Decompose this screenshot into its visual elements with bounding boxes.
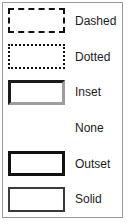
border-sample-cell [8, 151, 71, 176]
border-sample-cell [8, 80, 71, 105]
border-style-label: Inset [75, 85, 101, 99]
border-style-label: Solid [75, 192, 102, 206]
border-sample-dotted [8, 44, 65, 69]
border-sample-cell [8, 115, 71, 140]
table-row: None [3, 110, 122, 146]
border-style-label-cell: Dotted [71, 50, 122, 64]
border-sample-outset [8, 151, 65, 176]
table-row: Solid [3, 181, 122, 217]
table-row: Inset [3, 74, 122, 110]
border-style-label: Outset [75, 157, 110, 171]
border-style-label-cell: None [71, 121, 122, 135]
border-sample-cell [8, 44, 71, 69]
border-sample-inset [8, 80, 65, 105]
border-sample-cell [8, 8, 71, 33]
table-row: Outset [3, 146, 122, 182]
border-style-label-cell: Inset [71, 85, 122, 99]
border-style-label: None [75, 121, 104, 135]
border-style-label-cell: Outset [71, 157, 122, 171]
border-style-table: Dashed Dotted Inset None Outset [2, 2, 123, 218]
border-style-label-cell: Dashed [71, 14, 122, 28]
border-sample-dashed [8, 8, 65, 33]
border-style-label: Dashed [75, 14, 116, 28]
border-style-label-cell: Solid [71, 192, 122, 206]
border-style-label: Dotted [75, 50, 110, 64]
table-row: Dotted [3, 39, 122, 75]
border-sample-cell [8, 187, 71, 212]
border-sample-solid [8, 187, 65, 212]
border-sample-none [8, 115, 65, 140]
table-row: Dashed [3, 3, 122, 39]
